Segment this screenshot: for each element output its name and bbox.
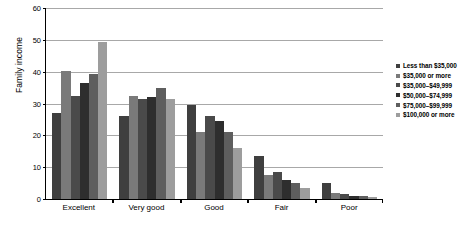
y-tick-label: 20 xyxy=(33,131,41,140)
bar-group xyxy=(46,8,113,199)
bar xyxy=(98,42,107,199)
y-tick-label: 40 xyxy=(33,67,41,76)
legend-item: $35,000–$49,999 xyxy=(396,81,473,91)
bar xyxy=(80,83,89,199)
legend-swatch-icon xyxy=(396,93,400,97)
legend-label: $100,000 or more xyxy=(403,111,454,118)
legend-swatch-icon xyxy=(396,64,400,68)
bar-chart: Family income 0102030405060 ExcellentVer… xyxy=(0,0,473,237)
y-tick-mark xyxy=(43,199,46,200)
legend-label: $75,000–$99,999 xyxy=(403,102,452,109)
bar xyxy=(224,132,233,199)
bar xyxy=(300,188,309,199)
y-axis-title: Family income xyxy=(14,0,24,130)
y-tick-label: 0 xyxy=(37,195,41,204)
x-axis-labels: ExcellentVery goodGoodFairPoor xyxy=(45,203,383,212)
bar xyxy=(233,148,242,199)
bar xyxy=(282,180,291,199)
bar xyxy=(196,132,205,199)
legend: Less than $35,000$35,000 or more$35,000–… xyxy=(396,61,473,120)
y-tick-label: 60 xyxy=(33,4,41,13)
legend-item: $100,000 or more xyxy=(396,110,473,120)
bar-set xyxy=(254,8,309,199)
bar xyxy=(52,113,61,199)
bar xyxy=(368,197,377,199)
legend-swatch-icon xyxy=(396,83,400,87)
y-tick-label: 10 xyxy=(33,163,41,172)
bar-group xyxy=(113,8,180,199)
bar-set xyxy=(187,8,242,199)
bar xyxy=(89,74,98,199)
legend-label: $35,000 or more xyxy=(403,72,451,79)
bar xyxy=(129,96,138,199)
x-axis-label: Very good xyxy=(113,203,181,212)
bar-group xyxy=(316,8,383,199)
bar xyxy=(71,96,80,199)
bar xyxy=(331,193,340,199)
bar xyxy=(166,99,175,199)
legend-label: $50,000–$74,999 xyxy=(403,92,452,99)
x-axis-label: Fair xyxy=(248,203,316,212)
bar xyxy=(264,175,273,199)
legend-label: $35,000–$49,999 xyxy=(403,82,452,89)
bar xyxy=(349,196,358,199)
bar-set xyxy=(322,8,377,199)
bar-set xyxy=(52,8,107,199)
bar-groups xyxy=(46,8,383,199)
bar-set xyxy=(119,8,174,199)
legend-swatch-icon xyxy=(396,113,400,117)
bar xyxy=(156,88,165,199)
bar xyxy=(138,99,147,199)
bar xyxy=(273,172,282,199)
bar xyxy=(322,183,331,199)
bar xyxy=(359,196,368,199)
legend-swatch-icon xyxy=(396,103,400,107)
bar xyxy=(147,97,156,199)
bar xyxy=(119,116,128,199)
x-axis-label: Good xyxy=(180,203,248,212)
y-tick-label: 50 xyxy=(33,35,41,44)
bar-group xyxy=(181,8,248,199)
x-axis-label: Excellent xyxy=(45,203,113,212)
plot-area: 0102030405060 xyxy=(45,8,383,200)
y-tick-label: 30 xyxy=(33,99,41,108)
bar xyxy=(205,116,214,199)
bar xyxy=(340,194,349,199)
legend-item: $50,000–$74,999 xyxy=(396,90,473,100)
bar xyxy=(291,183,300,199)
legend-label: Less than $35,000 xyxy=(403,62,457,69)
bar xyxy=(61,71,70,199)
bar xyxy=(254,156,263,199)
bar xyxy=(215,121,224,199)
x-axis-label: Poor xyxy=(315,203,383,212)
legend-item: Less than $35,000 xyxy=(396,61,473,71)
legend-item: $75,000–$99,999 xyxy=(396,100,473,110)
bar xyxy=(187,105,196,199)
bar-group xyxy=(248,8,315,199)
legend-item: $35,000 or more xyxy=(396,71,473,81)
legend-swatch-icon xyxy=(396,74,400,78)
